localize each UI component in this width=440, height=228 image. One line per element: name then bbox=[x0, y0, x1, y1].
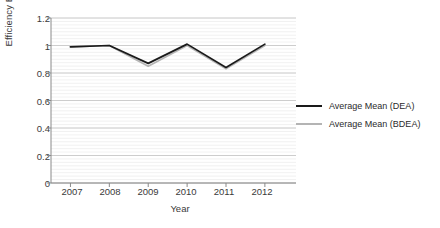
legend-label-dea: Average Mean (DEA) bbox=[329, 101, 414, 111]
x-tick-label: 2007 bbox=[52, 186, 92, 197]
x-tick-label: 2009 bbox=[128, 186, 168, 197]
x-tick-label: 2010 bbox=[166, 186, 206, 197]
legend-item-bdea[interactable]: Average Mean (BDEA) bbox=[296, 116, 420, 131]
x-tick-label: 2012 bbox=[242, 186, 282, 197]
legend-swatch-bdea bbox=[296, 123, 322, 125]
legend-label-bdea: Average Mean (BDEA) bbox=[329, 119, 420, 129]
chart-legend: Average Mean (DEA) Average Mean (BDEA) bbox=[296, 98, 420, 134]
chart-figure: Efficiency Estimates 1.2 1 0.8 0.6 0.4 0… bbox=[0, 0, 440, 228]
x-tick-label: 2011 bbox=[204, 186, 244, 197]
x-tick-label: 2008 bbox=[90, 186, 130, 197]
legend-item-dea[interactable]: Average Mean (DEA) bbox=[296, 98, 420, 113]
x-axis-title: Year bbox=[55, 203, 305, 214]
legend-swatch-dea bbox=[296, 105, 322, 107]
